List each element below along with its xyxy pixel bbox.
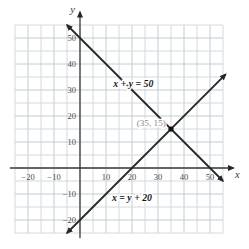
- equation-label-2: x = y + 20: [111, 192, 152, 203]
- plot-background: [0, 0, 249, 249]
- y-axis-label: y: [69, 4, 75, 15]
- x-tick-label: 20: [128, 172, 137, 182]
- coordinate-plane: −20−1010203040505040302010−10−20xyx + y …: [0, 0, 249, 249]
- y-tick-label: 30: [68, 85, 77, 95]
- x-tick-label: −20: [21, 172, 34, 182]
- y-tick-label: 20: [68, 111, 77, 121]
- x-axis-label: x: [234, 169, 240, 180]
- x-tick-label: 50: [206, 172, 215, 182]
- x-tick-label: −10: [47, 172, 60, 182]
- y-tick-label: 50: [68, 33, 77, 43]
- x-tick-label: 40: [180, 172, 189, 182]
- y-tick-label: −10: [63, 189, 76, 199]
- intersection-point: [168, 126, 173, 131]
- equation-label-1: x + y = 50: [112, 78, 153, 89]
- intersection-point-label: (35, 15): [137, 118, 166, 128]
- x-tick-label: 10: [102, 172, 111, 182]
- y-tick-label: 10: [68, 137, 77, 147]
- x-tick-label: 30: [154, 172, 163, 182]
- y-tick-label: 40: [68, 59, 77, 69]
- graph-figure: −20−1010203040505040302010−10−20xyx + y …: [0, 0, 249, 249]
- y-tick-label: −20: [63, 215, 76, 225]
